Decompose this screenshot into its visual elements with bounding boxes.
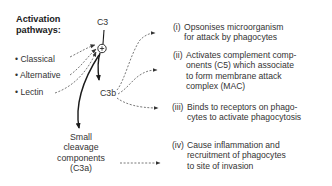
outcome-line: recruitment of phagocytes bbox=[187, 150, 286, 160]
outcome-line: onents (C5) which associate bbox=[186, 60, 296, 70]
outcome-line: to form membrane attack bbox=[186, 71, 296, 81]
pathway-label: Lectin bbox=[20, 87, 43, 97]
outcome-line: Cause inflammation and bbox=[187, 140, 286, 150]
outcome-line: cytes to activate phagocytosis bbox=[187, 112, 301, 122]
node-c3a: Small cleavage components (C3a) bbox=[50, 132, 112, 174]
outcome-text: Binds to receptors on phago- cytes to ac… bbox=[187, 102, 301, 123]
pathway-alternative: • Alternative bbox=[15, 70, 61, 80]
bullet-icon: • bbox=[15, 70, 18, 80]
outcome-iv: (iv) Cause inflammation and recruitment … bbox=[172, 140, 286, 171]
c3a-line: Small bbox=[50, 132, 112, 142]
complement-activation-diagram: Activation pathways: • Classical • Alter… bbox=[0, 0, 332, 186]
outcome-text: Opsonises microorganism for attack by ph… bbox=[184, 22, 283, 43]
outcome-line: Activates complement comp- bbox=[186, 50, 296, 60]
bullet-icon: • bbox=[15, 87, 18, 97]
lectin-arrow bbox=[55, 52, 96, 93]
outcome-line: to site of invasion bbox=[187, 161, 286, 171]
outcome-line: Opsonises microorganism bbox=[184, 22, 283, 32]
outcome-line: Binds to receptors on phago- bbox=[187, 102, 301, 112]
outcome-line: complex (MAC) bbox=[186, 81, 296, 91]
c3b-to-i-arrow bbox=[117, 33, 155, 90]
outcome-text: Activates complement comp- onents (C5) w… bbox=[186, 50, 296, 92]
pathway-label: Classical bbox=[20, 54, 54, 64]
pathway-classical: • Classical bbox=[15, 54, 55, 64]
outcome-i: (i) Opsonises microorganism for attack b… bbox=[173, 22, 283, 43]
title-line-1: Activation bbox=[16, 14, 61, 25]
alternative-arrow bbox=[70, 49, 96, 75]
node-c3: C3 bbox=[97, 17, 108, 27]
node-c3b: C3b bbox=[100, 88, 116, 98]
outcome-ii: (ii) Activates complement comp- onents (… bbox=[173, 50, 296, 92]
c3b-to-iii-arrow bbox=[117, 98, 158, 108]
c3b-to-ii-arrow bbox=[118, 70, 157, 94]
plus-icon bbox=[98, 44, 106, 52]
outcome-number: (ii) bbox=[173, 50, 186, 92]
outcome-line: for attack by phagocytes bbox=[184, 32, 283, 42]
outcome-text: Cause inflammation and recruitment of ph… bbox=[187, 140, 286, 171]
activation-pathways-title: Activation pathways: bbox=[16, 14, 61, 36]
bullet-icon: • bbox=[15, 54, 18, 64]
c3a-line: cleavage bbox=[50, 142, 112, 152]
c3-to-plus-line bbox=[103, 30, 104, 44]
title-line-2: pathways: bbox=[16, 25, 61, 36]
outcome-number: (i) bbox=[173, 22, 184, 43]
pathway-lectin: • Lectin bbox=[15, 87, 43, 97]
outcome-number: (iii) bbox=[172, 102, 187, 123]
c3a-line: (C3a) bbox=[50, 163, 112, 173]
c3a-line: components bbox=[50, 153, 112, 163]
outcome-iii: (iii) Binds to receptors on phago- cytes… bbox=[172, 102, 301, 123]
outcome-number: (iv) bbox=[172, 140, 187, 171]
pathway-label: Alternative bbox=[20, 70, 61, 80]
classical-arrow bbox=[70, 45, 95, 57]
